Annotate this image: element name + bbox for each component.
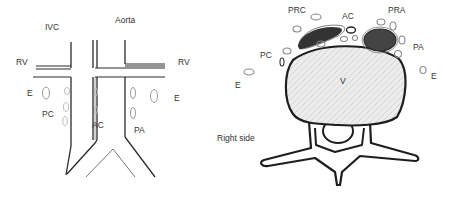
label-pa-axial: PA	[413, 42, 424, 52]
lymph-node-diagram: IVC Aorta RV RV E E PC AC PA	[0, 0, 452, 199]
label-right-side: Right side	[217, 133, 255, 143]
label-ac-axial: AC	[342, 11, 354, 21]
anatomy-figure: IVC Aorta RV RV E E PC AC PA	[0, 0, 452, 199]
label-e-left-axial: E	[235, 80, 241, 90]
label-rv-left: RV	[16, 57, 28, 67]
label-prc: PRC	[288, 5, 306, 15]
label-rv-right: RV	[178, 57, 190, 67]
label-vertebra: V	[340, 76, 346, 86]
left-panel: IVC Aorta RV RV E E PC AC PA	[16, 15, 190, 177]
label-e-left: E	[27, 88, 33, 98]
aorta-vessel	[67, 40, 165, 177]
label-e-right-axial: E	[431, 71, 437, 81]
label-pra: PRA	[388, 5, 406, 15]
label-pc-axial: PC	[260, 50, 272, 60]
label-ac: AC	[92, 120, 104, 130]
label-ivc: IVC	[45, 22, 59, 32]
right-panel: PRC AC PRA PC PA E E V Right side	[217, 5, 437, 185]
label-pa: PA	[134, 125, 145, 135]
vertebral-arch	[261, 119, 418, 185]
label-e-right: E	[174, 93, 180, 103]
label-pc: PC	[42, 109, 54, 119]
label-aorta: Aorta	[115, 15, 136, 25]
vertebral-body	[286, 46, 406, 125]
